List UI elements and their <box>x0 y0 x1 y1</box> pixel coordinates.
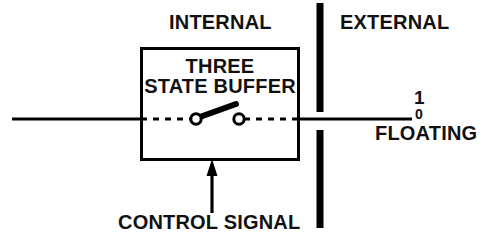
buffer-label-line2: STATE BUFFER <box>139 76 301 96</box>
switch-contact-terminal <box>234 114 244 124</box>
diagram-canvas: INTERNAL EXTERNAL THREE STATE BUFFER 1 0… <box>0 0 488 243</box>
label-external: EXTERNAL <box>340 12 449 32</box>
switch-pivot-terminal <box>191 114 201 124</box>
logic-level-low-label: 0 <box>415 107 423 121</box>
label-floating: FLOATING <box>375 123 477 143</box>
label-control-signal: CONTROL SIGNAL <box>118 212 300 232</box>
buffer-label-line1: THREE <box>141 56 299 76</box>
label-internal: INTERNAL <box>169 12 272 32</box>
logic-level-high-label: 1 <box>414 88 425 107</box>
control-signal-arrowhead <box>207 159 218 176</box>
